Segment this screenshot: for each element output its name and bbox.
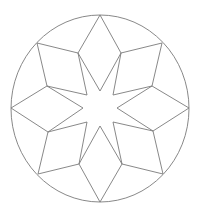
rhombus-east <box>117 86 189 131</box>
rhombus-west <box>11 86 83 132</box>
rhombus-group <box>11 15 189 202</box>
star-circle-diagram <box>0 0 199 212</box>
rhombus-north <box>78 15 121 91</box>
rhombus-south <box>79 126 122 202</box>
